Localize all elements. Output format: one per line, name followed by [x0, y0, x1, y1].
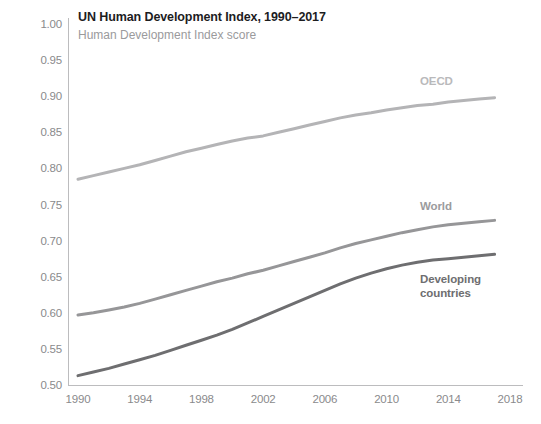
chart-container: UN Human Development Index, 1990–2017 Hu…	[0, 0, 541, 424]
series-label-developing: Developing countries	[420, 272, 481, 300]
series-line-oecd	[78, 98, 495, 180]
series-label-world: World	[420, 199, 452, 213]
series-label-oecd: OECD	[420, 74, 453, 88]
plot-area	[0, 0, 541, 424]
series-line-world	[78, 220, 495, 315]
